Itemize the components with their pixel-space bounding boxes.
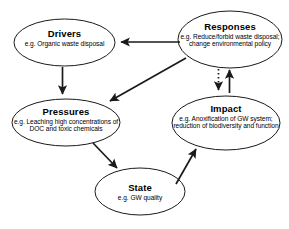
dpsir-diagram: Drivers e.g. Organic waste disposal Resp…	[0, 0, 289, 229]
node-ellipse-state	[95, 168, 185, 215]
node-ellipse-responses	[178, 11, 282, 68]
arrow-responses-to-pressures	[110, 58, 186, 101]
node-ellipse-impact	[172, 96, 280, 150]
arrow-pressures-to-state	[93, 143, 117, 168]
diagram-vector-layer	[0, 0, 289, 229]
arrow-state-to-impact	[176, 149, 196, 184]
node-ellipse-drivers	[14, 19, 115, 66]
node-ellipse-pressures	[12, 99, 120, 146]
